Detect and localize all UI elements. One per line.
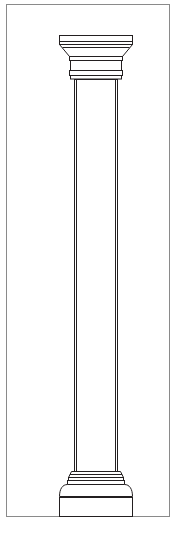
column-shaft [75,80,118,472]
base-plinth [60,498,133,517]
capital-necking [71,61,122,71]
capital-necking-upper-band [70,57,123,61]
base-fillet-lower [68,481,125,485]
base-torus [60,485,133,497]
drawing-page [0,0,186,540]
capital-astragal [70,71,123,76]
capital-astragal-fillet [71,76,122,80]
capital-echinus [60,45,133,57]
column-elevation-drawing [0,0,186,540]
